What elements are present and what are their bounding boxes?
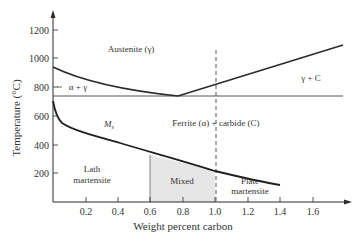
y-tick-label: 800	[34, 82, 49, 93]
y-tick-label: 200	[34, 168, 49, 179]
x-axis-title: Weight percent carbon	[133, 220, 233, 232]
y-tick-labels: 1200 1000 800 600 400 200	[29, 25, 49, 179]
austenite-label: Austenite (γ)	[108, 44, 155, 54]
y-tick-label: 400	[34, 140, 49, 151]
x-tick-label: 0.8	[177, 206, 190, 217]
plate-martensite-label-line1: Plate	[241, 176, 259, 186]
lath-martensite-label-line2: martensite	[73, 175, 111, 185]
x-tick-label: 1.0	[209, 206, 222, 217]
y-axis-title: Temperature (°C)	[10, 79, 23, 157]
plate-martensite-label-line2: martensite	[231, 186, 269, 196]
x-tick-label: 1.6	[307, 206, 320, 217]
ms-label-sub: s	[112, 124, 115, 130]
lath-martensite-label-line1: Lath	[84, 164, 101, 174]
x-axis-arrow-icon	[344, 200, 352, 205]
gamma-c-label: γ + C	[300, 73, 321, 83]
ferrite-carbide-label: Ferrite (α) + carbide (C)	[172, 118, 259, 128]
y-axis-arrow-icon	[51, 10, 56, 18]
acm-line	[178, 45, 343, 96]
x-tick-label: 1.4	[274, 206, 287, 217]
x-tick-label: 0.4	[112, 206, 125, 217]
x-tick-label: 0.6	[144, 206, 157, 217]
x-tick-label: 1.2	[242, 206, 255, 217]
x-tick-label: 0.2	[80, 206, 93, 217]
y-tick-label: 1200	[29, 25, 49, 36]
mixed-label: Mixed	[170, 176, 194, 186]
alpha-gamma-label: α + γ	[69, 82, 87, 92]
phase-diagram: 1200 1000 800 600 400 200 0.2 0.4 0.6 0.…	[0, 0, 357, 241]
y-tick-label: 1000	[29, 53, 49, 64]
x-tick-labels: 0.2 0.4 0.6 0.8 1.0 1.2 1.4 1.6	[80, 206, 320, 217]
ms-label: Ms	[103, 119, 115, 130]
y-tick-label: 600	[34, 111, 49, 122]
